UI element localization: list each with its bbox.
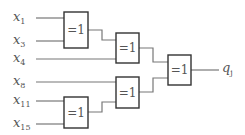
- svg-text:=1: =1: [119, 86, 137, 100]
- svg-text:=1: =1: [171, 63, 189, 77]
- input-label-x8: x8: [13, 73, 25, 90]
- circuit-svg: =1 =1 =1 =1 =1 x1 x3 x4 x8 x11 x15 qj: [0, 0, 245, 135]
- input-label-x1: x1: [13, 9, 25, 26]
- svg-text:=1: =1: [67, 23, 85, 37]
- wire-g1-g2: [88, 30, 116, 40]
- wire-g5-g3: [88, 102, 116, 112]
- xor-gate-3: =1: [116, 77, 139, 108]
- svg-text:x8: x8: [13, 73, 25, 90]
- xor-gate-5: =1: [64, 97, 88, 128]
- svg-text:x15: x15: [13, 115, 31, 132]
- svg-text:x4: x4: [13, 50, 25, 67]
- xor-gate-2: =1: [116, 33, 139, 63]
- svg-text:x1: x1: [13, 9, 25, 26]
- svg-text:qj: qj: [222, 60, 233, 77]
- wire-g3-g4: [139, 78, 168, 92]
- input-label-x11: x11: [13, 92, 31, 109]
- svg-text:=1: =1: [119, 41, 137, 55]
- xor-tree-diagram: =1 =1 =1 =1 =1 x1 x3 x4 x8 x11 x15 qj: [0, 0, 245, 135]
- svg-text:x11: x11: [13, 92, 31, 109]
- svg-text:x3: x3: [13, 32, 25, 49]
- xor-gate-1: =1: [64, 12, 88, 48]
- svg-text:=1: =1: [67, 106, 85, 120]
- input-label-x4: x4: [13, 50, 25, 67]
- output-label-qj: qj: [222, 60, 233, 77]
- input-label-x15: x15: [13, 115, 31, 132]
- xor-gate-4: =1: [168, 55, 191, 85]
- wire-g2-g4: [139, 48, 168, 62]
- input-label-x3: x3: [13, 32, 25, 49]
